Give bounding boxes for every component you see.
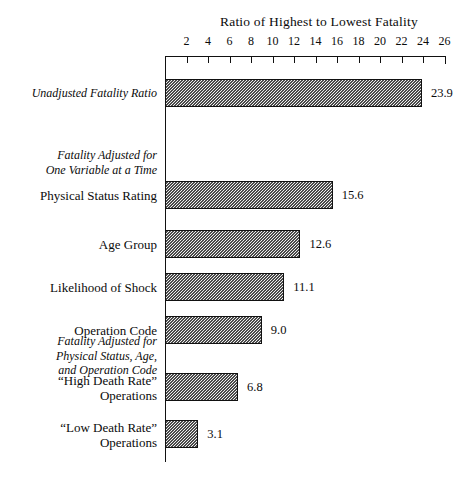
bar-value-label: 6.8 — [247, 373, 263, 401]
bar-value-label: 3.1 — [207, 420, 223, 448]
bar — [165, 230, 300, 258]
category-label: Unadjusted Fatality Ratio — [32, 86, 157, 101]
category-label: Age Group — [99, 237, 157, 252]
bar-value-label: 23.9 — [431, 79, 453, 107]
category-label: “Low Death Rate” Operations — [60, 420, 157, 450]
bar — [165, 79, 422, 107]
section-header: Fatality Adjusted for Physical Status, A… — [56, 334, 157, 378]
bar-value-label: 15.6 — [342, 181, 364, 209]
category-label: “High Death Rate” Operations — [58, 373, 157, 403]
category-label: Physical Status Rating — [40, 188, 157, 203]
bar — [165, 420, 198, 448]
bar — [165, 316, 262, 344]
section-header: Fatality Adjusted for One Variable at a … — [46, 148, 157, 177]
bar — [165, 181, 333, 209]
bar-value-label: 11.1 — [293, 273, 314, 301]
bar-value-label: 12.6 — [309, 230, 331, 258]
bar — [165, 273, 284, 301]
chart-root: Ratio of Highest to Lowest Fatality 2468… — [0, 0, 476, 484]
bar — [165, 373, 238, 401]
plot-area: 23.9Unadjusted Fatality Ratio15.6Physica… — [0, 0, 476, 484]
category-label: Likelihood of Shock — [50, 280, 157, 295]
bar-value-label: 9.0 — [271, 316, 287, 344]
